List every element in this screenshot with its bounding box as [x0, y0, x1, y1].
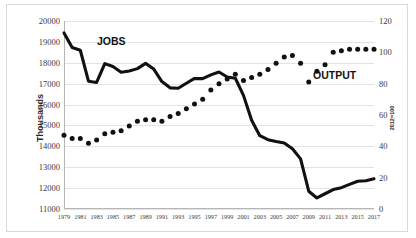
y-axis-left-tick-label: 17000	[39, 80, 60, 88]
y-axis-right-tick-label: 0	[379, 205, 383, 213]
y-axis-left-tick-label: 14000	[39, 142, 60, 150]
x-axis-tick-label: 1989	[139, 213, 151, 220]
output-data-point	[372, 47, 377, 52]
y-axis-right-tick-label: 120	[379, 17, 392, 25]
x-axis-tick-label: 2009	[303, 213, 315, 220]
output-data-point	[298, 61, 303, 66]
series-label-output: OUTPUT	[313, 69, 356, 81]
x-axis-tick-label: 1999	[221, 213, 233, 220]
x-axis-tick-label: 1979	[58, 213, 70, 220]
y-axis-left-tick-label: 12000	[39, 184, 60, 192]
output-data-point	[290, 53, 295, 58]
y-axis-right-tick-label: 20	[379, 174, 388, 182]
y-axis-left-tick-label: 11000	[39, 205, 60, 213]
chart-frame: Thousands 2012=100 110001200013000140001…	[6, 4, 408, 232]
output-data-point	[217, 81, 222, 86]
output-data-point	[347, 47, 352, 52]
x-axis-tick-label: 1991	[156, 213, 168, 220]
x-axis-tick-label: 2007	[286, 213, 298, 220]
output-data-point	[233, 72, 238, 77]
output-data-point	[249, 75, 254, 80]
output-data-point	[78, 136, 83, 141]
y-axis-left-tick-label: 20000	[39, 17, 60, 25]
output-data-point	[241, 78, 246, 83]
output-data-point	[200, 97, 205, 102]
x-axis-tick-label: 1993	[172, 213, 184, 220]
y-axis-right-tick-label: 100	[379, 48, 392, 56]
output-data-point	[86, 141, 91, 146]
series-plot	[64, 21, 374, 209]
x-axis-tick-label: 2013	[335, 213, 347, 220]
output-data-point	[119, 128, 124, 133]
x-axis-tick-label: 2011	[319, 213, 331, 220]
output-data-point	[127, 123, 132, 128]
output-data-point	[355, 47, 360, 52]
output-data-point	[143, 117, 148, 122]
y-axis-left-tick-label: 16000	[39, 101, 60, 109]
output-data-point	[159, 119, 164, 124]
series-label-jobs: JOBS	[97, 35, 126, 47]
x-axis-tick-label: 2017	[368, 213, 380, 220]
output-data-point	[363, 47, 368, 52]
y-axis-left-tick-label: 15000	[39, 121, 60, 129]
output-data-point	[306, 80, 311, 85]
output-data-point	[62, 133, 67, 138]
x-axis-tick-label: 1987	[123, 213, 135, 220]
y-axis-left-tick-label: 19000	[39, 38, 60, 46]
x-axis-tick-label: 1985	[107, 213, 119, 220]
output-data-point	[184, 106, 189, 111]
output-data-point	[225, 76, 230, 81]
output-data-point	[110, 130, 115, 135]
y-axis-right-tick-label: 40	[379, 142, 388, 150]
output-data-point	[102, 131, 107, 136]
output-data-point	[168, 114, 173, 119]
output-data-point	[135, 119, 140, 124]
y-axis-left-tick-label: 18000	[39, 59, 60, 67]
y-axis-right-title: 2012=100	[390, 106, 396, 131]
y-axis-right-tick-label: 80	[379, 80, 388, 88]
x-axis-tick-label: 1981	[74, 213, 86, 220]
output-data-point	[257, 72, 262, 77]
plot-area: 1100012000130001400015000160001700018000…	[64, 21, 374, 209]
output-data-point	[94, 138, 99, 143]
y-axis-left-tick-label: 13000	[39, 163, 60, 171]
x-axis-tick-label: 1997	[205, 213, 217, 220]
output-data-point	[339, 48, 344, 53]
output-data-point	[331, 50, 336, 55]
output-data-point	[151, 117, 156, 122]
output-data-point	[265, 67, 270, 72]
x-axis-tick-label: 2015	[351, 213, 363, 220]
y-axis-right-tick-label: 60	[379, 111, 388, 119]
output-data-point	[274, 61, 279, 66]
x-axis-tick-label: 1995	[188, 213, 200, 220]
output-dotted-series	[62, 47, 377, 146]
output-data-point	[176, 111, 181, 116]
x-axis-tick-label: 2005	[270, 213, 282, 220]
jobs-line-series	[64, 33, 374, 198]
x-axis-tick-label: 2001	[237, 213, 249, 220]
x-axis-tick-label: 2003	[254, 213, 266, 220]
output-data-point	[192, 102, 197, 107]
output-data-point	[282, 55, 287, 60]
gridline	[64, 209, 374, 210]
x-axis-tick-label: 1983	[90, 213, 102, 220]
output-data-point	[323, 62, 328, 67]
output-data-point	[208, 87, 213, 92]
output-data-point	[70, 136, 75, 141]
